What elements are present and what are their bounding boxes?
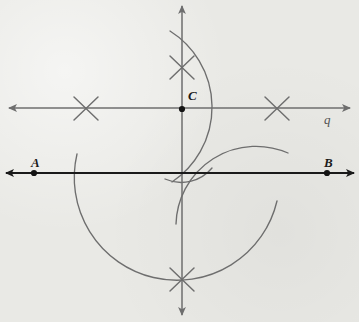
point-a-label: A — [31, 156, 40, 169]
arc-small-center — [165, 168, 212, 182]
point-b-label: B — [324, 156, 333, 169]
point-b-dot — [324, 170, 330, 176]
line-q-label: q — [324, 113, 331, 126]
arc-lower-right — [176, 146, 288, 224]
point-a-dot — [31, 170, 37, 176]
geometry-figure: A B C q — [0, 0, 359, 322]
point-c-dot — [179, 106, 185, 112]
arc-major-right — [170, 31, 212, 182]
point-c-label: C — [188, 89, 197, 102]
geometry-canvas — [0, 0, 359, 322]
